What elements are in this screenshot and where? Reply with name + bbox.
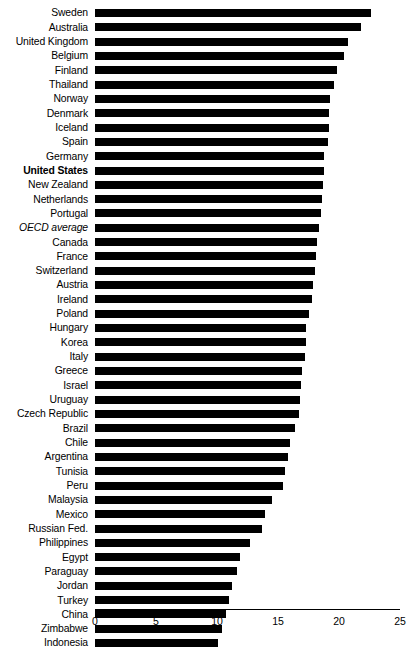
bar	[95, 152, 324, 160]
category-label: Mexico	[0, 508, 88, 522]
bar	[95, 396, 300, 404]
bar-track	[95, 396, 400, 404]
bar	[95, 281, 313, 289]
category-label: Thailand	[0, 78, 88, 92]
bar-row: France	[0, 250, 407, 264]
category-label: Paraguay	[0, 565, 88, 579]
category-label: Turkey	[0, 594, 88, 608]
bar-track	[95, 95, 400, 103]
bar-row: Turkey	[0, 594, 407, 608]
x-tick-label: 15	[263, 615, 293, 627]
bar-track	[95, 324, 400, 332]
category-label: Indonesia	[0, 636, 88, 650]
category-label: Czech Republic	[0, 407, 88, 421]
bar-track	[95, 410, 400, 418]
x-axis-line	[95, 609, 400, 610]
x-tick-label: 20	[324, 615, 354, 627]
bar-track	[95, 167, 400, 175]
bar-row: Germany	[0, 150, 407, 164]
bar-track	[95, 66, 400, 74]
bar-track	[95, 224, 400, 232]
bar-track	[95, 639, 400, 647]
bar	[95, 310, 309, 318]
bar	[95, 539, 250, 547]
bar-track	[95, 381, 400, 389]
bar-track	[95, 596, 400, 604]
bar-track	[95, 81, 400, 89]
category-label: Poland	[0, 307, 88, 321]
category-label: Peru	[0, 479, 88, 493]
bar	[95, 467, 285, 475]
bar	[95, 381, 301, 389]
category-label: Iceland	[0, 121, 88, 135]
bar-row: Netherlands	[0, 193, 407, 207]
bar-track	[95, 252, 400, 260]
bar-row: Malaysia	[0, 493, 407, 507]
bar-track	[95, 453, 400, 461]
bar-track	[95, 9, 400, 17]
x-tick-label: 10	[202, 615, 232, 627]
category-label: Australia	[0, 21, 88, 35]
bar-track	[95, 467, 400, 475]
bar	[95, 23, 361, 31]
category-label: Egypt	[0, 551, 88, 565]
category-label: United States	[0, 164, 88, 178]
bar-track	[95, 582, 400, 590]
bar-row: Switzerland	[0, 264, 407, 278]
category-label: Finland	[0, 64, 88, 78]
category-label: Norway	[0, 92, 88, 106]
category-label: Russian Fed.	[0, 522, 88, 536]
bar	[95, 252, 316, 260]
bar	[95, 238, 317, 246]
bar-row: Korea	[0, 336, 407, 350]
bar-track	[95, 295, 400, 303]
bar	[95, 224, 319, 232]
bar-track	[95, 510, 400, 518]
bar-row: Canada	[0, 236, 407, 250]
bar-row: Italy	[0, 350, 407, 364]
bar	[95, 496, 272, 504]
bar	[95, 138, 328, 146]
category-label: Sweden	[0, 6, 88, 20]
category-label: OECD average	[0, 221, 88, 235]
bar	[95, 439, 290, 447]
bar	[95, 582, 232, 590]
category-label: Israel	[0, 379, 88, 393]
bar-row: New Zealand	[0, 178, 407, 192]
bar-row: Ireland	[0, 293, 407, 307]
category-label: Argentina	[0, 450, 88, 464]
category-label: Spain	[0, 135, 88, 149]
bar-track	[95, 496, 400, 504]
bar-row: Finland	[0, 64, 407, 78]
bar-row: Greece	[0, 364, 407, 378]
bar-track	[95, 138, 400, 146]
bar-row: Hungary	[0, 321, 407, 335]
bar	[95, 95, 330, 103]
category-label: Uruguay	[0, 393, 88, 407]
bar-track	[95, 267, 400, 275]
category-label: Greece	[0, 364, 88, 378]
x-tick-label: 5	[141, 615, 171, 627]
bar-row: Austria	[0, 278, 407, 292]
bar	[95, 353, 305, 361]
bar-row: Israel	[0, 379, 407, 393]
category-label: Germany	[0, 150, 88, 164]
bar-row: OECD average	[0, 221, 407, 235]
bar-track	[95, 195, 400, 203]
bar	[95, 52, 344, 60]
plot-area: SwedenAustraliaUnited KingdomBelgiumFinl…	[0, 0, 407, 609]
bar-track	[95, 553, 400, 561]
category-label: United Kingdom	[0, 35, 88, 49]
bar-track	[95, 209, 400, 217]
bar-track	[95, 310, 400, 318]
bar-row: Poland	[0, 307, 407, 321]
bar-track	[95, 539, 400, 547]
category-label: Ireland	[0, 293, 88, 307]
bar	[95, 510, 265, 518]
category-label: France	[0, 250, 88, 264]
bar-track	[95, 238, 400, 246]
bar	[95, 596, 229, 604]
category-label: Canada	[0, 236, 88, 250]
bar-row: Spain	[0, 135, 407, 149]
x-axis: 0510152025	[0, 609, 407, 638]
